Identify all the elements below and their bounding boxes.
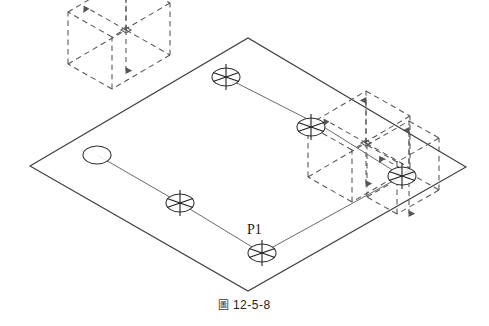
axis-arrow — [326, 121, 366, 144]
dashed-edge — [367, 197, 397, 214]
dashed-edge — [352, 116, 410, 150]
node-snap-marker[interactable] — [166, 190, 194, 216]
dashed-edge — [112, 55, 170, 89]
dashed-edge — [397, 190, 439, 214]
axis-arrow — [86, 8, 126, 31]
node-snap-marker[interactable] — [212, 64, 240, 90]
caption-number: 12-5-8 — [233, 298, 271, 312]
dashed-edge — [112, 3, 170, 37]
dashed-edge — [366, 143, 410, 168]
caption-mark-glyph: 圖 — [218, 299, 230, 312]
dashed-edge — [126, 0, 170, 3]
dashed-edge — [397, 138, 439, 162]
dashed-edge — [68, 12, 112, 37]
dashed-edge — [367, 145, 397, 162]
marker-ellipse — [83, 146, 111, 164]
dashed-edge — [68, 30, 126, 64]
dashed-ucs-box-right — [308, 91, 410, 202]
start-node-open[interactable] — [83, 146, 111, 164]
dashed-edge — [367, 121, 409, 145]
vertex-label-p1: P1 — [247, 222, 262, 238]
dashed-edge — [126, 30, 170, 55]
dashed-edge — [308, 177, 352, 202]
figure-root: P1 圖12-5-8 — [0, 0, 489, 326]
figure-caption: 圖12-5-8 — [0, 296, 489, 312]
node-snap-marker-p1[interactable] — [248, 240, 276, 266]
dashed-edge — [68, 0, 126, 12]
node-snap-marker[interactable] — [388, 163, 416, 189]
cad-drawing-canvas — [0, 0, 489, 326]
dashed-box-group — [68, 0, 439, 214]
dashed-edge — [68, 64, 112, 89]
dashed-ucs-box-upper-left — [68, 0, 170, 89]
